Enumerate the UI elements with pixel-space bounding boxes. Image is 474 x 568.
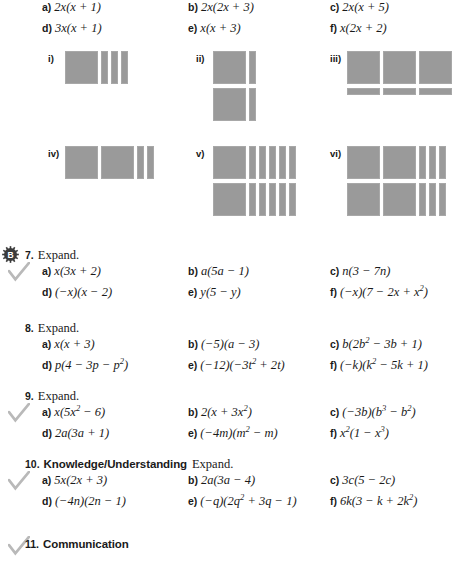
tile-vertical-bar (439, 183, 446, 216)
tile-rows (65, 146, 157, 183)
question-item-item: d)(−4n)(2n − 1) (42, 494, 126, 509)
question-item-row: d)(−x)(x − 2)e)y(5 − y)f)(−x)(7 − 2x + x… (0, 285, 474, 306)
tile-group-label: vi) (330, 148, 341, 159)
math-expression: (−q)(2q2 + 3q − 1) (200, 494, 296, 509)
question-item-item: a)x(3x + 2) (42, 264, 101, 279)
item-letter: d) (42, 427, 52, 439)
tile-vertical-bar (269, 183, 276, 216)
math-expression: b(2b2 − 3b + 1) (342, 337, 421, 352)
tile-group-label: iii) (330, 53, 341, 64)
question-item-item: b)a(5a − 1) (188, 264, 249, 279)
tile-vertical-bar (279, 183, 286, 216)
item-letter: e) (188, 359, 197, 371)
question-item-item: f)(−k)(k2 − 5k + 1) (330, 358, 428, 373)
question-item-item: b)2(x + 3x2) (188, 405, 252, 420)
question-item-row: a)x(x + 3)b)(−5)(a − 3)c)b(2b2 − 3b + 1) (0, 337, 474, 358)
question-item-item: a)5x(2x + 3) (42, 473, 107, 488)
tile-row (213, 88, 259, 121)
svg-text:B: B (7, 250, 13, 260)
item-letter: d) (42, 286, 52, 298)
item-letter: b) (188, 406, 198, 418)
item-letter: e) (188, 286, 197, 298)
question-item-row: a)x(3x + 2)b)a(5a − 1)c)n(3 − 7n) (0, 264, 474, 285)
question-item-row: d)p(4 − 3p − p2)e)(−12)(−3t2 + 2t)f)(−k)… (0, 358, 474, 379)
question-item-item: c)n(3 − 7n) (330, 264, 390, 279)
tile-group-label: v) (196, 148, 204, 159)
answer-choice-grid: a)2x(x + 1)b)2x(2x + 3)c)2x(x + 5)d)3x(x… (0, 0, 474, 42)
math-expression: (−4m)(m2 − m) (200, 426, 277, 441)
tile-rows (65, 51, 131, 88)
item-letter: c) (330, 406, 339, 418)
item-letter: a) (42, 474, 51, 486)
item-letter: d) (42, 22, 52, 34)
question-item-item: e)(−12)(−3t2 + 2t) (188, 358, 285, 373)
question-item-item: a)x(5x2 − 6) (42, 405, 105, 420)
math-expression: y(5 − y) (200, 285, 240, 300)
question-instruction: Expand. (38, 248, 79, 263)
item-letter: f) (330, 359, 337, 371)
question-number: 8. (25, 322, 34, 334)
tile-group-label: i) (48, 53, 54, 64)
tile-vertical-bar (249, 51, 256, 84)
tile-square (65, 146, 98, 179)
tile-row (347, 51, 455, 84)
item-letter: a) (42, 265, 51, 277)
tile-rows (213, 146, 299, 220)
choice-item: b)2x(2x + 3) (188, 0, 254, 15)
question-heading: 8.Expand. (25, 321, 79, 336)
math-expression: (−3b)(b3 − b2) (342, 405, 415, 420)
question-items: a)x(5x2 − 6)b)2(x + 3x2)c)(−3b)(b3 − b2)… (0, 405, 474, 447)
question-number: 9. (25, 390, 34, 402)
question-item-item: b)2a(3a − 4) (188, 473, 255, 488)
item-letter: f) (330, 22, 337, 34)
item-letter: d) (42, 495, 52, 507)
item-letter: c) (330, 1, 339, 13)
math-expression: (−x)(x − 2) (55, 285, 112, 300)
math-expression: p(4 − 3p − p2) (55, 358, 128, 373)
math-expression: 2x(2x + 3) (201, 0, 254, 15)
tile-square (383, 146, 416, 179)
question-items: a)5x(2x + 3)b)2a(3a − 4)c)3c(5 − 2c)d)(−… (0, 473, 474, 515)
tile-vertical-bar (249, 88, 256, 121)
tile-row (213, 146, 299, 179)
item-letter: d) (42, 359, 52, 371)
tile-square (213, 51, 246, 84)
item-letter: c) (330, 265, 339, 277)
math-expression: 5x(2x + 3) (54, 473, 107, 488)
tile-square (347, 183, 380, 216)
tile-vertical-bar (289, 183, 296, 216)
item-letter: f) (330, 495, 337, 507)
tile-vertical-bar (111, 51, 118, 84)
question-instruction: Expand. (38, 321, 79, 336)
choice-row: a)2x(x + 1)b)2x(2x + 3)c)2x(x + 5) (0, 0, 474, 21)
question-heading: 11.Communication (25, 538, 134, 550)
tile-horizontal-bar (419, 88, 452, 95)
item-letter: b) (188, 474, 198, 486)
math-expression: (−12)(−3t2 + 2t) (200, 358, 284, 373)
tile-rows (347, 51, 455, 99)
item-letter: a) (42, 406, 51, 418)
tile-vertical-bar (279, 146, 286, 179)
item-letter: a) (42, 338, 51, 350)
tile-row (65, 51, 131, 84)
question-item-item: a)x(x + 3) (42, 337, 95, 352)
tile-vertical-bar (147, 146, 154, 179)
math-expression: (−4n)(2n − 1) (55, 494, 126, 509)
math-expression: x2(1 − x3) (340, 426, 389, 441)
math-expression: (−5)(a − 3) (201, 337, 260, 352)
item-letter: c) (330, 474, 339, 486)
item-letter: f) (330, 427, 337, 439)
tile-vertical-bar (429, 183, 436, 216)
question-instruction: Expand. (192, 457, 233, 472)
item-letter: e) (188, 427, 197, 439)
tile-row (213, 183, 299, 216)
question-item-item: b)(−5)(a − 3) (188, 337, 259, 352)
question-item-item: e)(−q)(2q2 + 3q − 1) (188, 494, 297, 509)
tile-vertical-bar (259, 146, 266, 179)
question-number: 10. (25, 458, 40, 470)
choice-item: e)x(x + 3) (188, 21, 241, 36)
math-expression: x(x + 3) (200, 21, 240, 36)
math-expression: x(x + 3) (54, 337, 94, 352)
item-letter: a) (42, 1, 51, 13)
choice-item: c)2x(x + 5) (330, 0, 389, 15)
